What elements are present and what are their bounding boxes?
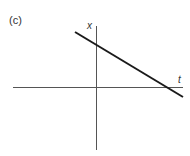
vertical-axis-label: x: [87, 20, 92, 31]
horizontal-axis-label: t: [178, 74, 181, 85]
plot-area: [0, 0, 190, 156]
figure-panel-c: (c) x t: [0, 0, 190, 156]
